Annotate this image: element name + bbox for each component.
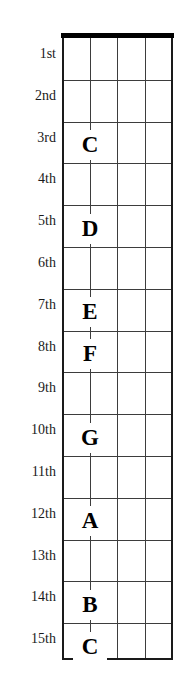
fret-label-15: 15th xyxy=(0,618,56,660)
fret-label-8: 8th xyxy=(0,326,56,368)
note-f-fret-8: F xyxy=(73,339,107,369)
fret-label-9: 9th xyxy=(0,367,56,409)
fret-label-1: 1st xyxy=(0,33,56,75)
fret-label-5: 5th xyxy=(0,200,56,242)
fret-label-10: 10th xyxy=(0,409,56,451)
string-line-1 xyxy=(62,37,64,660)
string-line-4 xyxy=(145,37,146,660)
note-g-fret-10: G xyxy=(73,423,107,453)
fret-number-label-column: 1st 2nd 3rd 4th 5th 6th 7th 8th 9th 10th… xyxy=(0,33,56,660)
string-line-3 xyxy=(117,37,118,660)
string-line-5 xyxy=(171,37,173,660)
fret-label-3: 3rd xyxy=(0,117,56,159)
note-b-fret-14: B xyxy=(73,590,107,620)
fretboard-grid: C D E F G A B C xyxy=(62,33,173,660)
fret-label-2: 2nd xyxy=(0,75,56,117)
note-d-fret-5: D xyxy=(73,214,107,244)
note-a-fret-12: A xyxy=(73,506,107,536)
note-e-fret-7: E xyxy=(73,297,107,327)
fretboard-diagram: 1st 2nd 3rd 4th 5th 6th 7th 8th 9th 10th… xyxy=(0,0,194,696)
nut-bar xyxy=(61,33,174,38)
fret-label-4: 4th xyxy=(0,158,56,200)
fret-label-7: 7th xyxy=(0,284,56,326)
fret-label-6: 6th xyxy=(0,242,56,284)
fret-label-14: 14th xyxy=(0,576,56,618)
fret-label-11: 11th xyxy=(0,451,56,493)
note-c-fret-3: C xyxy=(73,130,107,160)
fret-label-12: 12th xyxy=(0,493,56,535)
note-c-fret-15: C xyxy=(73,632,107,662)
fret-label-13: 13th xyxy=(0,535,56,577)
